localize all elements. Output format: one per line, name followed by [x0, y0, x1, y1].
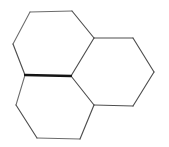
fused-hexagon-diagram — [0, 0, 169, 147]
bond-shared-center-left — [25, 75, 71, 76]
ring-diagram-canvas — [0, 0, 169, 147]
